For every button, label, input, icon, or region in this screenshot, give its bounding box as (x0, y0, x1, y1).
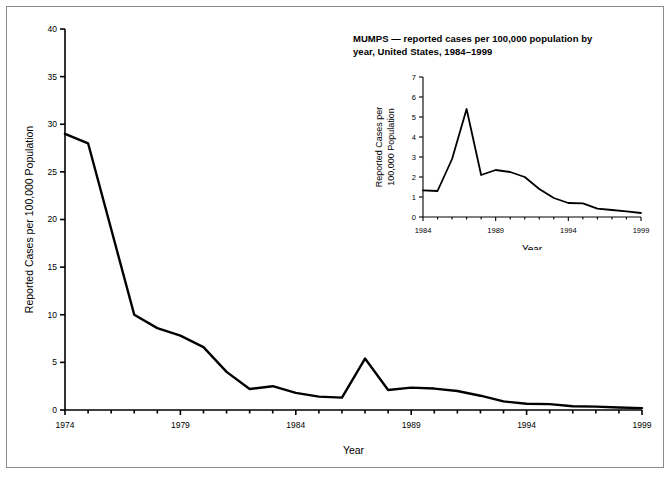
inset-chart-svg: 012345671984198919941999Reported Cases p… (357, 65, 657, 250)
main-x-axis-title: Year (343, 444, 365, 456)
x-tick-label: 1999 (633, 226, 650, 235)
inset-y-axis-title: Reported Cases per100,000 Population (374, 107, 396, 188)
y-tick-label: 0 (412, 213, 416, 222)
y-tick-label: 20 (48, 214, 58, 224)
x-tick-label: 1979 (171, 420, 190, 430)
inset-y-axis-title-line2: 100,000 Population (386, 108, 396, 186)
x-tick-label: 1984 (286, 420, 305, 430)
inset-y-axis-title-line1: Reported Cases per (374, 107, 384, 188)
y-tick-label: 5 (52, 357, 57, 367)
x-tick-label: 1999 (633, 420, 652, 430)
x-tick-label: 1974 (56, 420, 75, 430)
y-tick-label: 2 (412, 173, 416, 182)
main-y-axis-title: Reported Cases per 100,000 Population (23, 126, 35, 314)
y-tick-label: 25 (48, 167, 58, 177)
y-tick-label: 1 (412, 193, 416, 202)
y-tick-label: 30 (48, 119, 58, 129)
y-tick-label: 5 (412, 113, 416, 122)
x-tick-label: 1989 (487, 226, 504, 235)
data-series-line (423, 109, 641, 213)
y-tick-label: 6 (412, 93, 416, 102)
x-tick-label: 1994 (517, 420, 536, 430)
y-tick-label: 35 (48, 72, 58, 82)
y-tick-label: 40 (48, 24, 58, 34)
inset-x-axis-title: Year (522, 244, 543, 250)
y-tick-label: 10 (48, 310, 58, 320)
figure-frame: MUMPS — reported cases per 100,000 popul… (6, 6, 664, 468)
y-tick-label: 3 (412, 153, 416, 162)
x-tick-label: 1994 (560, 226, 577, 235)
y-tick-label: 7 (412, 73, 416, 82)
y-tick-label: 4 (412, 133, 416, 142)
y-tick-label: 15 (48, 262, 58, 272)
y-tick-label: 0 (52, 405, 57, 415)
x-tick-label: 1989 (402, 420, 421, 430)
x-tick-label: 1984 (415, 226, 432, 235)
inset-line-chart: 012345671984198919941999Reported Cases p… (357, 65, 657, 250)
